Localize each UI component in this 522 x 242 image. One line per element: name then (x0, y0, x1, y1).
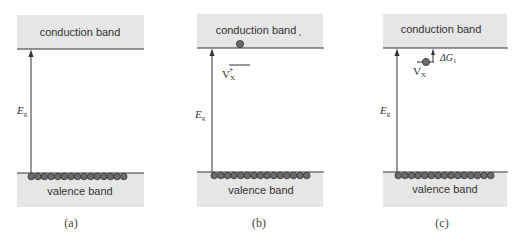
valence-electron (270, 172, 277, 179)
band-gap-label: Eg (16, 104, 28, 118)
valence-electron (257, 172, 264, 179)
valence-electron (28, 173, 35, 180)
conduction-electron (236, 40, 243, 47)
valence-electron (303, 172, 310, 179)
valence-electron (435, 172, 442, 179)
band-gap-label: Eg (194, 108, 206, 122)
valence-electron (421, 172, 428, 179)
valence-electrons (395, 172, 494, 179)
valence-electron (114, 173, 121, 180)
valence-band-label: valence band (412, 183, 477, 195)
trapped-electron (422, 58, 429, 65)
valence-electron (107, 173, 114, 180)
defect-charge-label: + (229, 65, 234, 74)
valence-electron (211, 172, 218, 179)
valence-electron (284, 172, 291, 179)
arrowhead-icon (395, 49, 400, 57)
valence-electron (237, 172, 244, 179)
valence-electron (415, 172, 422, 179)
valence-electron (461, 172, 468, 179)
valence-electron (224, 172, 231, 179)
speck (299, 34, 301, 36)
defect-label: VX (413, 65, 426, 79)
conduction-band-label: conduction band (216, 24, 297, 36)
valence-electron (68, 173, 75, 180)
conduction-band-label: conduction band (401, 23, 482, 35)
valence-electron (94, 173, 101, 180)
valence-electron (277, 172, 284, 179)
valence-electron (448, 172, 455, 179)
valence-electron (41, 173, 48, 180)
panel-b: conduction band valence band Eg VX + (b) (194, 14, 324, 230)
valence-electron (290, 172, 297, 179)
valence-electron (231, 172, 238, 179)
valence-electron (244, 172, 251, 179)
valence-electrons (211, 172, 310, 179)
valence-electron (264, 172, 271, 179)
valence-electron (61, 173, 68, 180)
panel-caption: (b) (252, 216, 266, 230)
valence-electron (474, 172, 481, 179)
valence-electron (468, 172, 475, 179)
valence-electron (120, 173, 127, 180)
valence-electron (481, 172, 488, 179)
panel-caption: (a) (64, 216, 77, 230)
valence-electron (487, 172, 494, 179)
valence-band-label: valence band (228, 184, 293, 196)
valence-electron (101, 173, 108, 180)
arrowhead-icon (29, 50, 34, 58)
valence-band-label: valence band (47, 185, 112, 197)
valence-electron (402, 172, 409, 179)
delta-g-label: ΔG1 (439, 52, 457, 65)
valence-electron (81, 173, 88, 180)
valence-electron (54, 173, 61, 180)
valence-electron (395, 172, 402, 179)
arrowhead-icon (431, 49, 435, 56)
valence-electron (35, 173, 42, 180)
valence-electron (408, 172, 415, 179)
valence-electron (428, 172, 435, 179)
valence-electron (74, 173, 81, 180)
valence-electron (218, 172, 225, 179)
panel-a: conduction band valence band Eg (a) (16, 15, 144, 230)
valence-electron (441, 172, 448, 179)
valence-electrons (28, 173, 127, 180)
valence-electron (251, 172, 258, 179)
band-diagram-figure: conduction band valence band Eg (a) cond… (0, 0, 522, 242)
valence-electron (454, 172, 461, 179)
panel-caption: (c) (435, 216, 448, 230)
band-gap-label: Eg (379, 104, 391, 118)
arrowhead-icon (210, 49, 215, 57)
panel-c: conduction band valence band Eg VX ΔG1 (… (379, 14, 508, 230)
valence-electron (87, 173, 94, 180)
valence-electron (48, 173, 55, 180)
valence-electron (297, 172, 304, 179)
conduction-band-label: conduction band (40, 26, 121, 38)
